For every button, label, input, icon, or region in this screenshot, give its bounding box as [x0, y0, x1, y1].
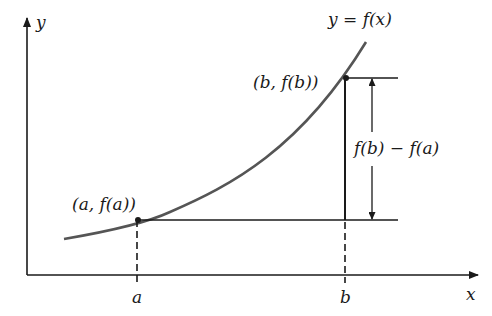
tick-label-b: b [340, 287, 351, 307]
curve-label: y = f(x) [327, 9, 392, 29]
diagram-canvas: y x y = f(x) (b, f(b)) (a, f(a)) f(b) − … [0, 0, 492, 316]
point-a [135, 217, 141, 223]
y-axis-label: y [35, 12, 46, 32]
point-a-label: (a, f(a)) [72, 194, 136, 214]
tick-label-a: a [132, 287, 142, 307]
x-axis-label: x [466, 284, 476, 304]
point-b [343, 75, 349, 81]
point-b-label: (b, f(b)) [253, 72, 318, 92]
difference-label: f(b) − f(a) [352, 138, 439, 158]
